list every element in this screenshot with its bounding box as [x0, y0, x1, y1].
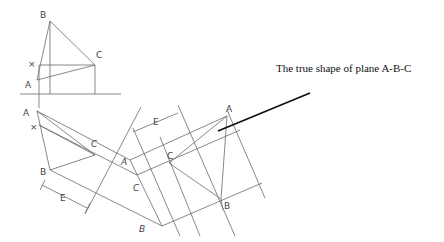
label-dim-e2: E — [153, 117, 159, 127]
label-top-x: × — [28, 59, 36, 69]
label-front-a: A — [23, 108, 30, 118]
edge-line — [130, 160, 162, 226]
edge-a-c — [37, 111, 95, 155]
label-front-c: C — [91, 139, 98, 149]
projector-a-true — [227, 110, 265, 198]
edge-b-c — [50, 21, 95, 65]
projector-x — [39, 125, 137, 175]
edge-view — [130, 116, 262, 226]
label-edge-b: B — [139, 224, 145, 234]
label-true-b: B — [224, 201, 230, 211]
true-edge-c-b — [169, 163, 221, 199]
label-front-b: B — [40, 167, 46, 177]
edge-b-c — [50, 155, 95, 170]
projector-a — [37, 111, 130, 160]
label-true-a: A — [226, 104, 233, 114]
label-edge-c: C — [133, 183, 140, 193]
auxiliary-view-drawing: B C × A A × C B E A C B E C A B The true… — [0, 0, 444, 242]
annotation-text: The true shape of plane A-B-C — [276, 62, 411, 74]
edge-a-c — [37, 65, 95, 80]
projector-b2 — [162, 183, 262, 226]
label-top-c: C — [96, 50, 102, 60]
label-top-b: B — [40, 10, 46, 20]
fold-line-2 — [133, 128, 180, 236]
label-front-x: × — [30, 122, 38, 132]
fold-line-1 — [85, 107, 141, 214]
label-dim-e1: E — [60, 193, 66, 203]
projector-a2 — [130, 116, 227, 160]
label-true-c: C — [167, 151, 173, 161]
label-top-a: A — [25, 80, 32, 90]
label-edge-a: A — [120, 157, 127, 167]
plan-view — [37, 111, 162, 226]
projector-c-true — [160, 137, 200, 236]
